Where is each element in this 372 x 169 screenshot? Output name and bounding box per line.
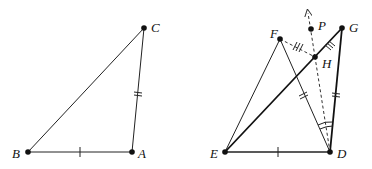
label-p: P <box>317 18 326 33</box>
label-f: F <box>269 26 279 41</box>
point-g <box>339 25 345 31</box>
geometry-diagram: A B C <box>0 0 372 169</box>
triangle-abc: A B C <box>12 20 160 161</box>
figure-defgh: D E F G H P <box>209 13 359 161</box>
segment-dh <box>315 57 330 152</box>
point-f <box>277 36 283 42</box>
segment-ac <box>132 28 144 152</box>
segment-bc <box>28 28 144 152</box>
label-g: G <box>349 20 359 35</box>
point-a <box>129 149 135 155</box>
label-c: C <box>151 20 160 35</box>
label-h: H <box>321 56 332 71</box>
label-b: B <box>12 146 20 161</box>
point-d <box>327 149 333 155</box>
segment-ef <box>225 39 280 152</box>
label-e: E <box>209 146 218 161</box>
label-d: D <box>336 146 347 161</box>
label-a: A <box>137 146 146 161</box>
point-e <box>222 149 228 155</box>
ray-hp <box>308 13 315 57</box>
point-b <box>25 149 31 155</box>
point-p <box>308 26 314 32</box>
point-c <box>141 25 147 31</box>
point-h <box>312 54 318 60</box>
